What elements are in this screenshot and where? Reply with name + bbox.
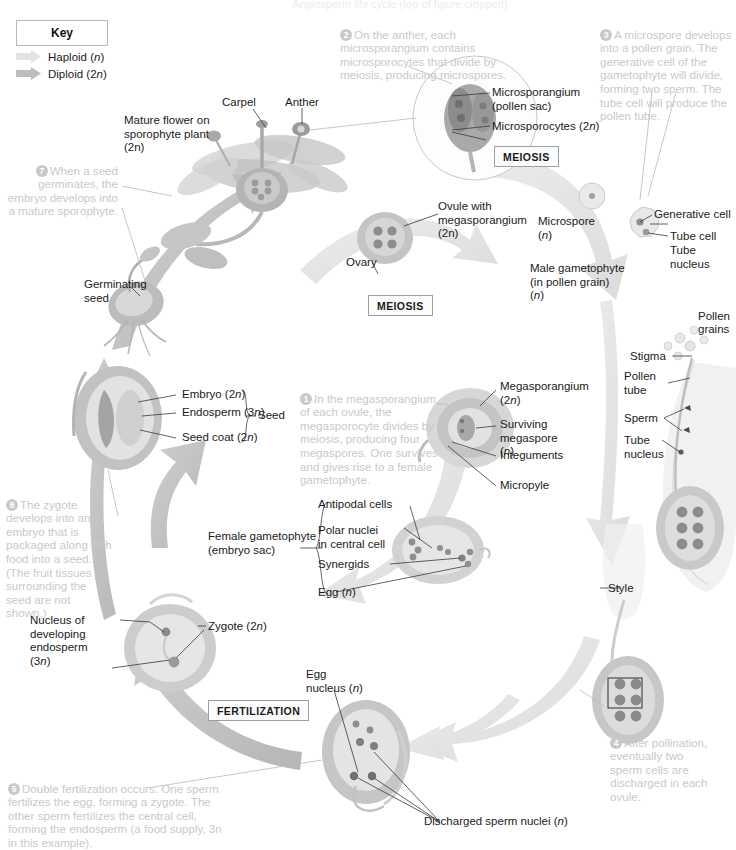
label-micropyle: Micropyle: [500, 479, 549, 493]
label-germinating-seed: Germinating seed: [84, 278, 147, 305]
label-carpel: Carpel: [222, 96, 256, 110]
label-male-gametophyte: Male gametophyte(in pollen grain)(n): [530, 262, 625, 303]
callout-6-text: The zygote develops into an embryo that …: [6, 498, 112, 620]
key-label-haploid: Haploid (n): [48, 51, 104, 63]
callout-1-number: 1: [300, 393, 312, 405]
callout-1: 1In the megasporangium of each ovule, th…: [300, 378, 448, 487]
label-egg-nucleus: Eggnucleus (n): [306, 668, 363, 695]
diploid-arrow-icon: [16, 67, 42, 80]
callout-6-number: 6: [6, 499, 18, 511]
key-heading: Key: [16, 20, 108, 46]
label-tube-nucleus-2: Tube nucleus: [624, 434, 664, 461]
stage-box-meiosis-anther: MEIOSIS: [494, 146, 559, 167]
callout-7: 7When a seed germinates, the embryo deve…: [6, 150, 118, 218]
label-microsporocytes: Microsporocytes (2n): [492, 120, 599, 134]
key-item-diploid: Diploid (2n): [16, 67, 108, 80]
callout-4: 4After pollination, eventually two sperm…: [610, 722, 714, 804]
label-anther: Anther: [285, 96, 319, 110]
label-microspore: Microspore(n): [538, 215, 595, 242]
callout-3: 3A microspore develops into a pollen gra…: [600, 14, 734, 123]
label-embryo: Embryo (2n): [182, 388, 245, 402]
label-integuments: Integuments: [500, 449, 563, 463]
label-female-gametophyte: Female gametophyte (embryo sac): [208, 530, 316, 557]
label-pollen-grains: Pollen grains: [698, 310, 730, 336]
label-tube-nucleus: Tube nucleus: [670, 244, 736, 271]
label-stigma: Stigma: [630, 350, 666, 364]
callout-3-number: 3: [600, 29, 612, 41]
callout-3-text: A microspore develops into a pollen grai…: [600, 28, 731, 123]
label-mature-flower: Mature flower on sporophyte plant (2n): [124, 114, 210, 155]
callout-5-text: Double fertilization occurs. One sperm f…: [8, 782, 222, 849]
callout-2-text: On the anther, each microsporangium cont…: [340, 28, 506, 82]
callout-2-number: 2: [340, 29, 352, 41]
label-generative-cell: Generative cell: [654, 208, 731, 222]
label-endosperm: Endosperm (3n): [182, 406, 264, 420]
label-antipodal-cells: Antipodal cells: [318, 498, 392, 512]
label-polar-nuclei: Polar nuclei in central cell: [318, 524, 385, 551]
haploid-arrow-icon: [16, 50, 42, 63]
callout-7-number: 7: [36, 165, 48, 177]
label-zygote: Zygote (2n): [208, 620, 267, 634]
label-ovule-with-megasporangium: Ovule with megasporangium (2n): [438, 200, 527, 241]
key-label-diploid: Diploid (2n): [48, 68, 107, 80]
callout-5: 5Double fertilization occurs. One sperm …: [8, 768, 230, 850]
label-egg: Egg (n): [318, 586, 356, 600]
callout-2: 2On the anther, each microsporangium con…: [340, 14, 516, 82]
label-sperm: Sperm: [624, 412, 658, 426]
key-legend: Key Haploid (n) Diploid (2n): [16, 20, 108, 80]
callout-5-number: 5: [8, 783, 20, 795]
callout-4-number: 4: [610, 737, 622, 749]
label-megasporangium: Megasporangium(2n): [500, 380, 589, 407]
label-seed: Seed: [258, 409, 285, 423]
label-discharged-sperm: Discharged sperm nuclei (n): [424, 815, 568, 829]
label-style: Style: [608, 582, 634, 596]
callout-4-text: After pollination, eventually two sperm …: [610, 736, 707, 803]
label-ovary: Ovary: [346, 256, 377, 270]
label-pollen-tube: Pollen tube: [624, 370, 656, 397]
label-tube-cell: Tube cell: [670, 230, 716, 244]
callout-6: 6The zygote develops into an embryo that…: [6, 484, 112, 620]
label-microsporangium: Microsporangium (pollen sac): [492, 86, 580, 113]
stage-box-fertilization: FERTILIZATION: [208, 700, 309, 721]
label-synergids: Synergids: [318, 558, 369, 572]
callout-1-text: In the megasporangium of each ovule, the…: [300, 392, 438, 487]
label-seed-coat: Seed coat (2n): [182, 431, 257, 445]
key-item-haploid: Haploid (n): [16, 50, 108, 63]
label-nucleus-developing-endosperm: Nucleus ofdevelopingendosperm(3n): [30, 614, 88, 668]
callout-7-text: When a seed germinates, the embryo devel…: [8, 164, 118, 218]
stage-box-meiosis-ovule: MEIOSIS: [368, 295, 433, 316]
